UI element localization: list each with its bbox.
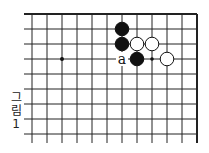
white-stone xyxy=(145,37,159,51)
go-board: a xyxy=(0,0,209,153)
black-stone xyxy=(115,37,129,51)
dot-marker xyxy=(150,57,154,61)
white-stone xyxy=(160,52,174,66)
caption-char: 1 xyxy=(9,118,23,131)
black-stone xyxy=(130,52,144,66)
black-stone xyxy=(115,22,129,36)
hoshi-point xyxy=(60,57,64,61)
white-stone xyxy=(130,37,144,51)
figure-caption: 그 림 1 xyxy=(9,92,23,131)
point-label: a xyxy=(118,51,126,67)
